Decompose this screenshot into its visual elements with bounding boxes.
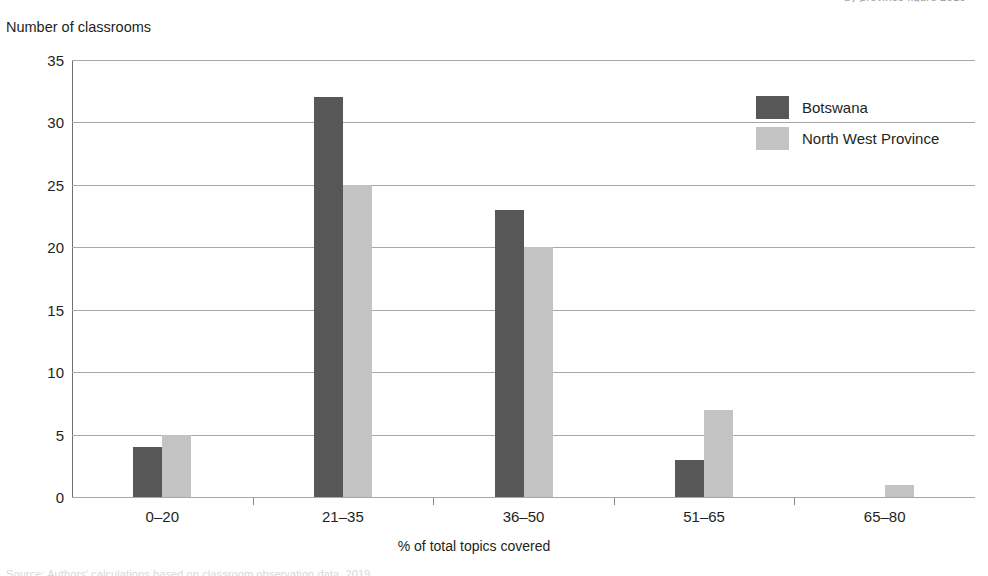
bar-botswana-36–50	[495, 210, 524, 497]
y-tick-label: 5	[4, 426, 64, 443]
x-axis-tick	[253, 498, 254, 505]
x-axis-title-text: % of total topics covered	[398, 538, 551, 554]
gridline	[72, 497, 975, 498]
legend-swatch-icon	[756, 96, 789, 119]
y-tick-label: 30	[4, 114, 64, 131]
bar-north-west-province-21–35	[343, 185, 372, 497]
chart-legend: BotswanaNorth West Province	[756, 92, 939, 154]
y-tick-label: 35	[4, 52, 64, 69]
y-axis-tick-labels: 05101520253035	[0, 60, 64, 498]
legend-item-north-west-province[interactable]: North West Province	[756, 123, 939, 154]
bar-botswana-51–65	[675, 460, 704, 497]
legend-swatch-icon	[756, 127, 789, 150]
y-tick-label: 15	[4, 301, 64, 318]
y-tick-label: 0	[4, 489, 64, 506]
x-category-label: 36–50	[503, 508, 545, 525]
bar-north-west-province-36–50	[524, 247, 553, 497]
x-axis-tick	[433, 498, 434, 505]
cut-off-source-note: Source: Authors' calculations based on c…	[6, 568, 374, 576]
bar-botswana-21–35	[314, 97, 343, 497]
y-tick-label: 10	[4, 364, 64, 381]
bar-north-west-province-0–20	[162, 435, 191, 497]
x-axis-tick	[794, 498, 795, 505]
x-category-label: 65–80	[864, 508, 906, 525]
bar-botswana-0–20	[133, 447, 162, 497]
x-axis-title: % of total topics covered	[0, 538, 988, 554]
y-axis-title: Number of classrooms	[6, 19, 151, 35]
legend-item-botswana[interactable]: Botswana	[756, 92, 939, 123]
bar-north-west-province-51–65	[704, 410, 733, 497]
legend-label: North West Province	[802, 130, 939, 147]
x-category-label: 0–20	[146, 508, 179, 525]
x-axis-tick	[614, 498, 615, 505]
legend-label: Botswana	[802, 99, 868, 116]
cut-off-header-text: by province figure 2019	[844, 0, 966, 2]
x-category-label: 51–65	[683, 508, 725, 525]
bar-north-west-province-65–80	[885, 485, 914, 497]
y-tick-label: 20	[4, 239, 64, 256]
x-category-label: 21–35	[322, 508, 364, 525]
y-tick-label: 25	[4, 176, 64, 193]
